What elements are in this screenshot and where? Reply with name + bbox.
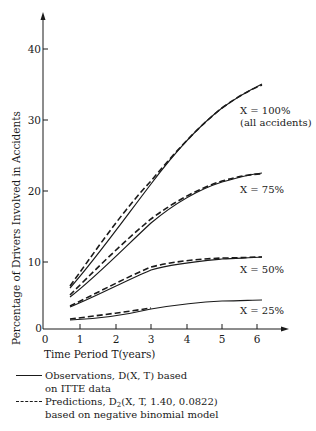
legend-item-predictions: Predictions, D2(X, T, 1.40, 0.0822) (14, 395, 314, 408)
curve-label-100-sub: (all accidents) (240, 117, 312, 128)
x-ticks (80, 324, 257, 329)
curve-label-50: X = 50% (240, 264, 284, 275)
legend-label: based on negative binomial model (45, 408, 218, 421)
x-axis-title: Time Period T(years) (44, 348, 155, 360)
predictions-curve-100 (70, 85, 262, 286)
legend: Observations, D(X, T) based on ITTE data… (14, 369, 314, 421)
y-tick-label: 30 (28, 114, 41, 126)
legend-item-observations: Observations, D(X, T) based (14, 369, 314, 382)
curve-label-25: X = 25% (240, 305, 284, 316)
legend-label-suffix: (X, T, 1.40, 0.0822) (121, 396, 217, 407)
x-tick-label: 2 (113, 333, 120, 345)
axes (43, 16, 284, 329)
legend-label: on ITTE data (45, 382, 111, 395)
legend-item-observations-cont: on ITTE data (14, 382, 314, 395)
x-tick-label: 0 (42, 333, 49, 345)
solid-line-icon (16, 375, 42, 376)
legend-label: Observations, D(X, T) based (45, 369, 187, 382)
x-tick-label: 3 (148, 333, 155, 345)
y-tick-label: 10 (28, 256, 41, 268)
observations-curve-25 (70, 300, 262, 320)
dashed-line-icon (16, 401, 42, 402)
y-tick-label: 20 (28, 185, 41, 197)
x-tick-label: 5 (219, 333, 226, 345)
legend-label-prefix: Predictions, D (45, 396, 117, 407)
curves (70, 84, 262, 320)
y-tick-label: 40 (28, 43, 41, 55)
y-axis-arrow-icon (41, 12, 46, 20)
observations-curve-75 (70, 173, 262, 297)
predictions-curve-75 (70, 174, 262, 295)
predictions-curve-25 (70, 308, 151, 319)
predictions-curve-50 (70, 257, 262, 306)
y-axis-title: Percentage of Drivers Involved in Accide… (10, 111, 22, 345)
line-chart: 40 30 20 10 0 0 1 2 3 4 5 6 Time Period … (0, 0, 316, 360)
curve-label-100: X = 100% (240, 105, 290, 116)
observations-curve-50 (70, 257, 262, 307)
curve-label-75: X = 75% (240, 184, 284, 195)
x-tick-label: 6 (254, 333, 261, 345)
x-tick-label: 4 (184, 333, 191, 345)
y-ticks (43, 49, 48, 262)
x-axis-arrow-icon (281, 327, 289, 332)
x-tick-label: 1 (77, 333, 84, 345)
legend-item-predictions-cont: based on negative binomial model (14, 408, 314, 421)
